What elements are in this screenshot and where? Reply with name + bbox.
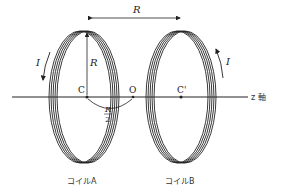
- current-arrow-left: [43, 52, 50, 80]
- point-o-label: O: [129, 85, 136, 95]
- z-axis-label: z 軸: [251, 92, 266, 102]
- point-c-label: C: [78, 85, 85, 95]
- coil-a-caption: コイルA: [67, 177, 97, 186]
- current-arrow-right: [216, 49, 223, 78]
- point-c-prime-label: C': [177, 85, 186, 95]
- distance-label: R: [132, 4, 141, 15]
- point-c: [86, 96, 89, 99]
- radius-label: R: [89, 57, 98, 68]
- current-label-left: I: [35, 57, 41, 68]
- point-o: [132, 96, 135, 99]
- half-r-numerator: R: [104, 105, 111, 114]
- half-r-denominator: 2: [105, 115, 110, 124]
- point-c-prime: [180, 96, 183, 99]
- helmholtz-diagram: R R I I C O C' R 2 z 軸 コイルA コイルB: [0, 0, 282, 192]
- coil-b-caption: コイルB: [165, 177, 195, 186]
- current-label-right: I: [225, 56, 231, 67]
